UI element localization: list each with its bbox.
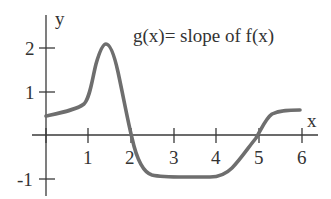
x-tick-label-3: 3	[169, 147, 179, 168]
chart-canvas: 2 1 -1 1 2 3 4 5 6 y x g(x)= slope of f(…	[0, 0, 331, 199]
x-axis-label: x	[307, 110, 317, 131]
y-tick-label-neg1: -1	[17, 169, 33, 190]
x-tick-label-2: 2	[125, 147, 135, 168]
x-tick-label-1: 1	[83, 147, 93, 168]
y-axis-label: y	[55, 8, 65, 29]
x-tick-label-4: 4	[211, 147, 221, 168]
x-tick-label-5: 5	[254, 147, 264, 168]
chart-title: g(x)= slope of f(x)	[133, 25, 274, 47]
x-tick-label-6: 6	[297, 147, 307, 168]
y-tick-label-2: 2	[25, 38, 35, 59]
y-tick-label-1: 1	[25, 82, 35, 103]
